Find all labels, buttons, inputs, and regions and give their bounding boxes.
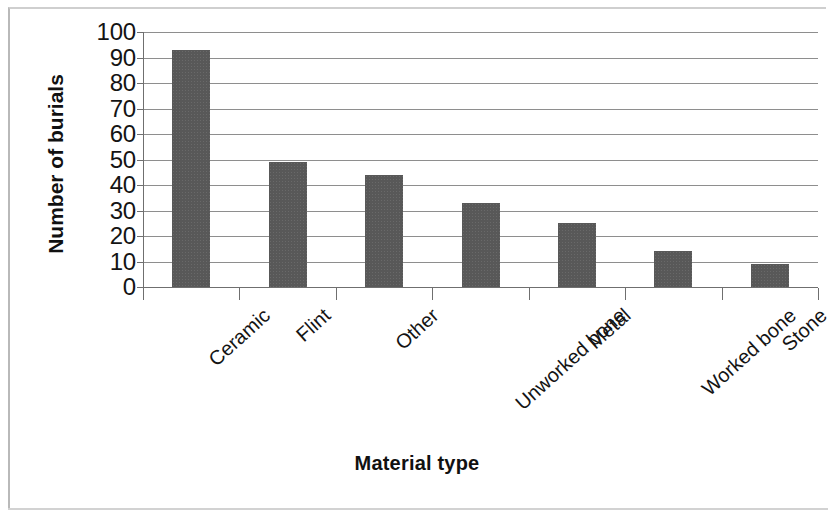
y-tick-label-0: 0 bbox=[56, 275, 136, 299]
bar-worked-bone bbox=[654, 251, 692, 287]
y-tick-label-60: 60 bbox=[56, 122, 136, 146]
x-tick-end bbox=[818, 288, 819, 300]
y-tick-label-20: 20 bbox=[56, 224, 136, 248]
x-label-ceramic: Ceramic bbox=[204, 304, 274, 370]
y-axis-tick-labels: 1009080706050403020100 bbox=[56, 20, 136, 310]
chart-screenshot: Number of burials 1009080706050403020100… bbox=[0, 0, 834, 519]
y-tick-label-10: 10 bbox=[56, 250, 136, 274]
bar-flint bbox=[269, 162, 307, 287]
bar-unworked-bone bbox=[462, 203, 500, 287]
y-tick-label-80: 80 bbox=[56, 71, 136, 95]
bar-ceramic bbox=[172, 50, 210, 287]
x-tick-5 bbox=[625, 288, 626, 300]
x-tick-0 bbox=[143, 288, 144, 300]
gridline-0 bbox=[143, 287, 818, 288]
x-label-other: Other bbox=[391, 304, 443, 354]
x-tick-4 bbox=[529, 288, 530, 300]
bar-series bbox=[143, 32, 818, 287]
y-tick-label-90: 90 bbox=[56, 46, 136, 70]
x-label-flint: Flint bbox=[291, 304, 334, 346]
y-tick-label-100: 100 bbox=[56, 20, 136, 44]
x-tick-2 bbox=[336, 288, 337, 300]
x-label-worked-bone: Worked bone bbox=[698, 304, 801, 400]
x-tick-1 bbox=[239, 288, 240, 300]
y-tick-label-70: 70 bbox=[56, 97, 136, 121]
x-axis-tick-labels: CeramicFlintOtherUnworked boneMetalWorke… bbox=[0, 300, 834, 450]
plot-area bbox=[143, 32, 818, 287]
x-tick-6 bbox=[722, 288, 723, 300]
x-tick-3 bbox=[432, 288, 433, 300]
x-axis-title: Material type bbox=[0, 452, 834, 475]
y-tick-label-40: 40 bbox=[56, 173, 136, 197]
y-tick-label-50: 50 bbox=[56, 148, 136, 172]
bar-stone bbox=[751, 264, 789, 287]
bar-other bbox=[365, 175, 403, 287]
bar-metal bbox=[558, 223, 596, 287]
y-tick-label-30: 30 bbox=[56, 199, 136, 223]
bar-chart: Number of burials 1009080706050403020100… bbox=[0, 0, 834, 519]
